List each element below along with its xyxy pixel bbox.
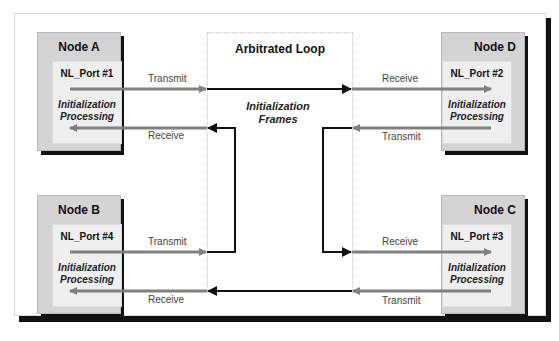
label-c-transmit: Transmit bbox=[382, 295, 421, 306]
label-c-receive: Receive bbox=[382, 236, 418, 247]
label-b-receive: Receive bbox=[148, 294, 184, 305]
label-a-transmit: Transmit bbox=[148, 73, 187, 84]
label-d-receive: Receive bbox=[382, 73, 418, 84]
arrow-loop-right bbox=[323, 128, 352, 252]
arrow-loop-left bbox=[207, 128, 235, 252]
label-b-transmit: Transmit bbox=[148, 236, 187, 247]
label-a-receive: Receive bbox=[148, 130, 184, 141]
connection-lines bbox=[0, 0, 559, 341]
label-d-transmit: Transmit bbox=[382, 131, 421, 142]
